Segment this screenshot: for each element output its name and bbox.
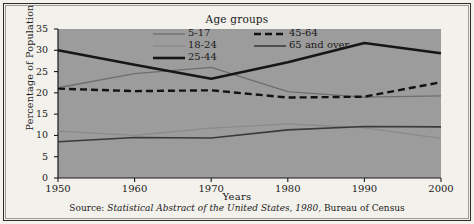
y-axis-tick-label: 20 (22, 87, 48, 98)
chart-title: Age groups (0, 13, 474, 25)
legend-label-5-17: 5-17 (188, 27, 210, 38)
plot-background (58, 29, 441, 178)
y-axis-tick-label: 10 (22, 129, 48, 140)
x-axis-tick-label: 1950 (38, 183, 78, 194)
source-citation: Statistical Abstract of the United State… (107, 203, 321, 213)
y-axis-tick-label: 35 (22, 23, 48, 34)
x-axis-tick-label: 1960 (115, 183, 155, 194)
y-axis-tick-label: 25 (22, 66, 48, 77)
source-caption: Source: Statistical Abstract of the Unit… (0, 203, 474, 213)
legend-label-45-64: 45-64 (289, 27, 318, 38)
source-prefix: Source: (69, 203, 104, 213)
legend-label-18-24: 18-24 (188, 39, 217, 50)
x-axis-tick-label: 1980 (268, 183, 308, 194)
y-axis-tick-label: 30 (22, 44, 48, 55)
legend-label-65-and-over: 65 and over (289, 39, 349, 50)
y-axis-tick-label: 5 (22, 151, 48, 162)
x-axis-tick-label: 2000 (421, 183, 461, 194)
legend-label-25-44: 25-44 (188, 51, 217, 62)
y-axis-tick-label: 0 (22, 172, 48, 183)
figure-container: Age groups Percentage of Population Year… (0, 0, 474, 224)
source-publisher: Bureau of Census (324, 203, 405, 213)
y-axis-tick-label: 15 (22, 108, 48, 119)
x-axis-tick-label: 1970 (191, 183, 231, 194)
x-axis-tick-label: 1990 (344, 183, 384, 194)
line-chart: Age groups Percentage of Population Year… (0, 0, 474, 224)
